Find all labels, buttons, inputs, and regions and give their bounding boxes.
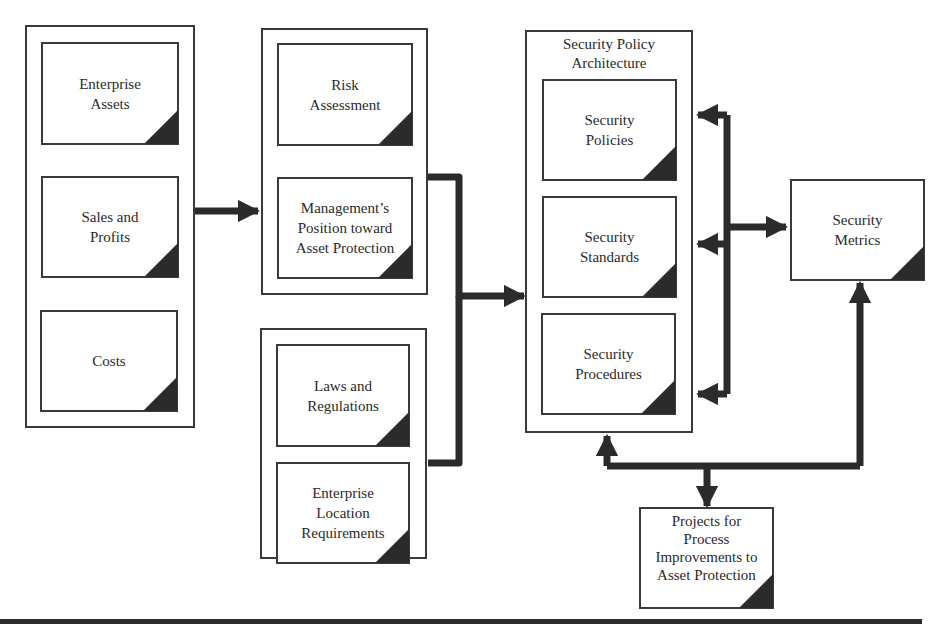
group-title: Security Policy Architecture <box>527 35 691 73</box>
node-security-metrics: Security Metrics <box>790 179 925 281</box>
corner-fold-icon <box>642 263 676 297</box>
node-security-standards: Security Standards <box>542 196 677 298</box>
node-label: Security Metrics <box>833 210 883 250</box>
node-label: Projects for Process Improvements to Ass… <box>655 512 757 584</box>
corner-fold-icon <box>642 146 676 180</box>
corner-fold-icon <box>144 110 178 144</box>
corner-fold-icon <box>378 111 412 145</box>
node-projects-process-improvements: Projects for Process Improvements to Ass… <box>639 507 774 609</box>
node-label: Enterprise Assets <box>79 74 141 114</box>
corner-fold-icon <box>143 377 177 411</box>
node-sales-and-profits: Sales and Profits <box>41 176 179 278</box>
node-laws-and-regulations: Laws and Regulations <box>276 344 410 447</box>
node-management-position: Management’s Position toward Asset Prote… <box>277 177 413 279</box>
corner-fold-icon <box>641 380 675 414</box>
node-label: Security Policies <box>585 110 635 150</box>
node-label: Risk Assessment <box>310 75 381 115</box>
node-label: Management’s Position toward Asset Prote… <box>296 198 395 258</box>
node-label: Security Standards <box>580 227 639 267</box>
node-enterprise-location-requirements: Enterprise Location Requirements <box>276 462 410 564</box>
node-security-procedures: Security Procedures <box>541 313 676 415</box>
node-label: Laws and Regulations <box>307 376 379 416</box>
corner-fold-icon <box>144 243 178 277</box>
node-enterprise-assets: Enterprise Assets <box>41 42 179 145</box>
node-risk-assessment: Risk Assessment <box>277 43 413 146</box>
node-label: Costs <box>92 351 125 371</box>
arrow-assessment-to-policy <box>428 177 524 296</box>
bottom-rule-divider <box>0 619 922 624</box>
node-label: Security Procedures <box>575 344 642 384</box>
node-security-policies: Security Policies <box>542 79 677 181</box>
node-label: Enterprise Location Requirements <box>301 483 384 543</box>
line-regulatory-join <box>428 296 459 463</box>
node-costs: Costs <box>40 310 178 412</box>
node-label: Sales and Profits <box>81 207 138 247</box>
corner-fold-icon <box>890 246 924 280</box>
corner-fold-icon <box>375 412 409 446</box>
